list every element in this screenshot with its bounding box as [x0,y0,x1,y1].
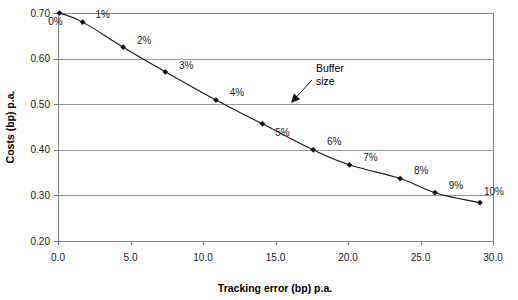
y-axis-tick-label: 0.20 [31,236,51,247]
x-axis-tick-label: 20.0 [338,252,358,263]
data-point-label: 8% [414,165,429,176]
data-point-label: 10% [484,186,504,197]
data-point-label: 0% [48,16,63,27]
y-axis-tick-label: 0.30 [31,190,51,201]
chart-container: 0%1%2%3%4%5%6%7%8%9%10% 0.200.300.400.50… [0,0,518,300]
data-point-label: 4% [230,87,245,98]
x-axis-tick-label: 30.0 [483,252,503,263]
y-axis-tick-label: 0.70 [31,8,51,19]
data-point-label: 7% [363,152,378,163]
y-axis-tick-label: 0.60 [31,53,51,64]
x-axis-tick-label: 10.0 [193,252,213,263]
data-point-label: 2% [137,35,152,46]
costs-vs-tracking-error-chart: 0%1%2%3%4%5%6%7%8%9%10% 0.200.300.400.50… [0,0,518,300]
x-axis-tick-label: 15.0 [266,252,286,263]
data-point-label: 5% [275,127,290,138]
y-axis-tick-label: 0.40 [31,144,51,155]
data-point-label: 9% [449,180,464,191]
annotation-label-line1: Buffer [316,62,344,74]
y-axis-title: Costs (bp) p.a. [4,90,16,163]
data-point-label: 1% [95,9,110,20]
x-axis-tick-label: 0.0 [51,252,65,263]
data-point-label: 6% [327,136,342,147]
data-point-label: 3% [179,60,194,71]
annotation-label-line2: size [316,75,335,87]
y-axis-tick-label: 0.50 [31,99,51,110]
x-axis-title: Tracking error (bp) p.a. [218,282,332,294]
x-axis-tick-label: 5.0 [124,252,138,263]
x-axis-tick-label: 25.0 [411,252,431,263]
